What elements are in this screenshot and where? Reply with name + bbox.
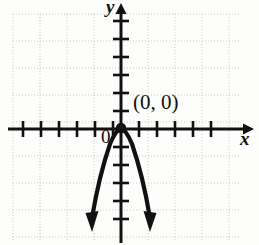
parabola-right-arrowhead bbox=[144, 211, 157, 232]
x-axis-label: x bbox=[240, 129, 250, 148]
origin-label: 0 bbox=[101, 127, 111, 146]
coordinate-plane bbox=[0, 0, 259, 245]
grid-lines bbox=[13, 14, 240, 240]
vertex-coordinate-label: (0, 0) bbox=[133, 92, 179, 113]
y-axis-label: y bbox=[106, 0, 114, 16]
x-axis bbox=[8, 124, 254, 135]
graph-figure: y x (0, 0) 0 bbox=[0, 0, 259, 245]
vertex-point bbox=[116, 123, 126, 133]
parabola-left-arrowhead bbox=[86, 211, 99, 232]
